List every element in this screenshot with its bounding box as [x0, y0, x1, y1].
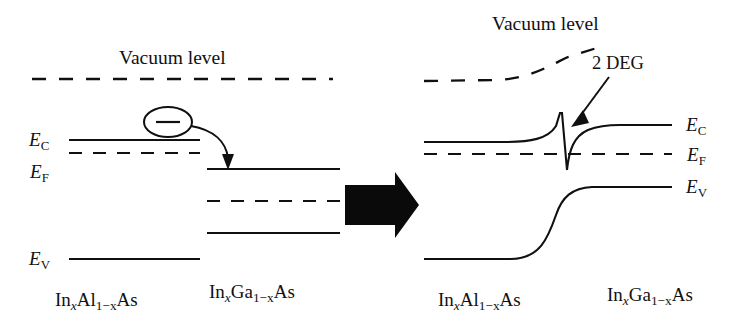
right-channel-sub1: x [623, 293, 629, 308]
band-diagram-svg [0, 0, 738, 332]
left-channel-material-label: InxGa1−xAs [209, 282, 295, 301]
right-ec-label: EC [686, 115, 706, 134]
left-barrier-sub2: 1−x [96, 298, 117, 313]
left-ef-subscript: F [42, 170, 49, 185]
left-barrier-suffix: As [117, 289, 138, 310]
right-ec-line [424, 113, 672, 170]
right-barrier-prefix: In [438, 289, 454, 310]
left-ev-subscript: V [41, 257, 50, 272]
right-barrier-mid: Al [460, 289, 479, 310]
left-panel-group [32, 79, 340, 259]
right-channel-material-label: InxGa1−xAs [607, 285, 693, 304]
right-channel-sub2: 1−x [651, 293, 672, 308]
right-vacuum-level-line [424, 47, 600, 81]
left-barrier-sub1: x [71, 298, 77, 313]
left-channel-suffix: As [274, 281, 295, 302]
left-ec-subscript: C [41, 138, 50, 153]
left-ev-label: EV [29, 249, 50, 268]
left-barrier-mid: Al [77, 289, 96, 310]
left-ec-symbol: E [29, 129, 41, 150]
electron-transfer-arrowhead [222, 154, 234, 170]
right-ef-subscript: F [699, 153, 706, 168]
twodeg-label: 2 DEG [592, 54, 644, 73]
left-channel-sub1: x [225, 290, 231, 305]
left-channel-mid: Ga [231, 281, 253, 302]
right-barrier-suffix: As [500, 289, 521, 310]
right-panel-group [424, 47, 672, 259]
right-ev-label: EV [686, 177, 707, 196]
twodeg-pointer-arrowhead [571, 110, 589, 127]
right-channel-prefix: In [607, 284, 623, 305]
right-ev-line [424, 187, 672, 259]
transition-block-arrow [345, 172, 419, 238]
right-barrier-sub2: 1−x [479, 298, 500, 313]
right-barrier-sub1: x [454, 298, 460, 313]
right-vacuum-level-label: Vacuum level [492, 14, 599, 34]
right-ef-symbol: E [687, 144, 699, 165]
left-ef-label: EF [30, 162, 49, 181]
right-ev-symbol: E [686, 176, 698, 197]
right-channel-suffix: As [672, 284, 693, 305]
left-ef-symbol: E [30, 161, 42, 182]
right-ec-subscript: C [698, 123, 707, 138]
left-vacuum-level-label: Vacuum level [119, 48, 226, 68]
left-barrier-prefix: In [55, 289, 71, 310]
right-barrier-material-label: InxAl1−xAs [438, 290, 521, 309]
left-ev-symbol: E [29, 248, 41, 269]
left-channel-prefix: In [209, 281, 225, 302]
left-channel-sub2: 1−x [253, 290, 274, 305]
right-ef-label: EF [687, 145, 706, 164]
right-ec-symbol: E [686, 114, 698, 135]
left-ec-label: EC [29, 130, 49, 149]
right-channel-mid: Ga [629, 284, 651, 305]
left-barrier-material-label: InxAl1−xAs [55, 290, 138, 309]
right-ev-subscript: V [698, 185, 707, 200]
band-diagram-figure: Vacuum level EC EF EV InxAl1−xAs InxGa1−… [0, 0, 738, 332]
